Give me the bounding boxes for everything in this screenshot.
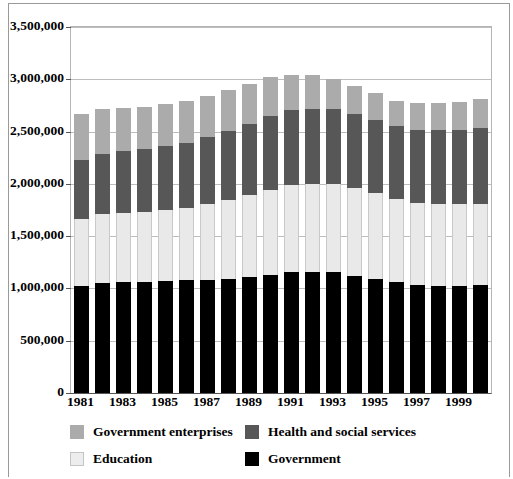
bar-segment-education-1992[interactable] — [305, 184, 320, 272]
bar-segment-government-1994[interactable] — [347, 276, 362, 393]
bar-segment-education-1987[interactable] — [200, 204, 215, 279]
bar-segment-government-enterprises-1986[interactable] — [179, 101, 194, 143]
bar-segment-government-enterprises-1985[interactable] — [158, 104, 173, 146]
bar-segment-government-enterprises-1983[interactable] — [116, 108, 131, 151]
bar-segment-education-1986[interactable] — [179, 208, 194, 280]
bar-segment-health-and-social-services-1995[interactable] — [368, 120, 383, 193]
bar-segment-health-and-social-services-1999[interactable] — [452, 130, 467, 205]
bar-segment-education-1995[interactable] — [368, 193, 383, 279]
bar-segment-government-enterprises-1995[interactable] — [368, 93, 383, 119]
bar-segment-health-and-social-services-1985[interactable] — [158, 146, 173, 210]
bar-1990[interactable] — [263, 77, 278, 393]
bar-1992[interactable] — [305, 75, 320, 393]
bar-1986[interactable] — [179, 101, 194, 393]
bar-segment-education-1997[interactable] — [410, 203, 425, 286]
bar-segment-government-1995[interactable] — [368, 279, 383, 393]
bar-segment-government-enterprises-2000[interactable] — [473, 99, 488, 128]
bar-1998[interactable] — [431, 103, 446, 393]
bar-segment-government-1988[interactable] — [221, 279, 236, 394]
bar-segment-government-enterprises-1992[interactable] — [305, 75, 320, 108]
bar-segment-government-enterprises-1997[interactable] — [410, 103, 425, 129]
bar-segment-education-1993[interactable] — [326, 184, 341, 272]
bar-segment-government-1989[interactable] — [242, 277, 257, 393]
bar-segment-health-and-social-services-1981[interactable] — [74, 160, 89, 220]
bar-segment-government-1999[interactable] — [452, 286, 467, 393]
bar-1989[interactable] — [242, 84, 257, 394]
bar-segment-education-1991[interactable] — [284, 185, 299, 272]
bar-segment-health-and-social-services-1991[interactable] — [284, 110, 299, 185]
legend-item-government-enterprises[interactable]: Government enterprises — [70, 424, 233, 440]
bar-segment-government-1981[interactable] — [74, 286, 89, 393]
bar-1982[interactable] — [95, 109, 110, 393]
bar-segment-government-enterprises-1988[interactable] — [221, 90, 236, 131]
bar-segment-health-and-social-services-1982[interactable] — [95, 154, 110, 215]
bar-segment-health-and-social-services-1986[interactable] — [179, 143, 194, 208]
bar-segment-government-enterprises-1989[interactable] — [242, 84, 257, 124]
bar-segment-education-1996[interactable] — [389, 199, 404, 283]
bar-1988[interactable] — [221, 90, 236, 393]
bar-segment-government-enterprises-1999[interactable] — [452, 102, 467, 130]
bar-segment-education-1990[interactable] — [263, 190, 278, 276]
bar-segment-government-enterprises-1984[interactable] — [137, 107, 152, 149]
bar-segment-health-and-social-services-1992[interactable] — [305, 109, 320, 184]
bar-segment-education-1981[interactable] — [74, 219, 89, 286]
bar-segment-education-1994[interactable] — [347, 188, 362, 276]
bar-1999[interactable] — [452, 102, 467, 393]
bar-segment-government-enterprises-1990[interactable] — [263, 77, 278, 117]
bar-segment-government-1984[interactable] — [137, 282, 152, 393]
bar-segment-education-2000[interactable] — [473, 204, 488, 285]
bar-1993[interactable] — [326, 79, 341, 393]
bar-segment-health-and-social-services-1987[interactable] — [200, 137, 215, 204]
bar-segment-health-and-social-services-1984[interactable] — [137, 149, 152, 212]
bar-segment-government-enterprises-1981[interactable] — [74, 114, 89, 160]
bar-segment-government-1983[interactable] — [116, 282, 131, 393]
bar-segment-health-and-social-services-1990[interactable] — [263, 116, 278, 189]
bar-segment-health-and-social-services-1989[interactable] — [242, 124, 257, 195]
bar-segment-government-1982[interactable] — [95, 283, 110, 393]
legend-item-government[interactable]: Government — [245, 451, 341, 467]
bar-segment-government-1997[interactable] — [410, 285, 425, 393]
bar-segment-government-1996[interactable] — [389, 282, 404, 393]
bar-1983[interactable] — [116, 108, 131, 393]
bar-segment-government-1986[interactable] — [179, 280, 194, 393]
bar-segment-health-and-social-services-1996[interactable] — [389, 126, 404, 198]
bar-segment-education-1983[interactable] — [116, 213, 131, 283]
bar-1985[interactable] — [158, 104, 173, 393]
bar-segment-government-1990[interactable] — [263, 275, 278, 393]
bar-segment-health-and-social-services-1993[interactable] — [326, 109, 341, 184]
bar-segment-government-enterprises-1996[interactable] — [389, 101, 404, 127]
legend-item-education[interactable]: Education — [70, 451, 152, 467]
bar-1997[interactable] — [410, 103, 425, 393]
bar-segment-education-1988[interactable] — [221, 200, 236, 278]
bar-1994[interactable] — [347, 86, 362, 393]
legend-item-health-and-social-services[interactable]: Health and social services — [245, 424, 416, 440]
bar-segment-government-2000[interactable] — [473, 285, 488, 393]
bar-1987[interactable] — [200, 96, 215, 393]
bar-segment-education-1999[interactable] — [452, 204, 467, 286]
bar-1981[interactable] — [74, 114, 89, 393]
bar-segment-education-1984[interactable] — [137, 212, 152, 282]
bar-segment-education-1998[interactable] — [431, 204, 446, 286]
bar-segment-health-and-social-services-1988[interactable] — [221, 131, 236, 200]
bar-segment-education-1985[interactable] — [158, 210, 173, 281]
bar-segment-government-1992[interactable] — [305, 272, 320, 393]
bar-segment-education-1982[interactable] — [95, 214, 110, 282]
bar-segment-health-and-social-services-1983[interactable] — [116, 151, 131, 213]
bar-segment-government-1987[interactable] — [200, 280, 215, 393]
bar-1996[interactable] — [389, 101, 404, 393]
bar-segment-health-and-social-services-1997[interactable] — [410, 130, 425, 203]
bar-2000[interactable] — [473, 99, 488, 393]
bar-segment-government-enterprises-1991[interactable] — [284, 75, 299, 111]
bar-segment-health-and-social-services-1994[interactable] — [347, 114, 362, 188]
bar-segment-government-enterprises-1994[interactable] — [347, 86, 362, 114]
bar-1995[interactable] — [368, 93, 383, 393]
bar-segment-government-enterprises-1982[interactable] — [95, 109, 110, 153]
bar-segment-government-1991[interactable] — [284, 272, 299, 393]
bar-segment-government-enterprises-1987[interactable] — [200, 96, 215, 137]
bar-segment-government-enterprises-1993[interactable] — [326, 79, 341, 109]
bar-segment-health-and-social-services-2000[interactable] — [473, 128, 488, 204]
bar-segment-government-1985[interactable] — [158, 281, 173, 393]
bar-segment-health-and-social-services-1998[interactable] — [431, 130, 446, 204]
bar-1984[interactable] — [137, 107, 152, 394]
bar-segment-education-1989[interactable] — [242, 195, 257, 278]
